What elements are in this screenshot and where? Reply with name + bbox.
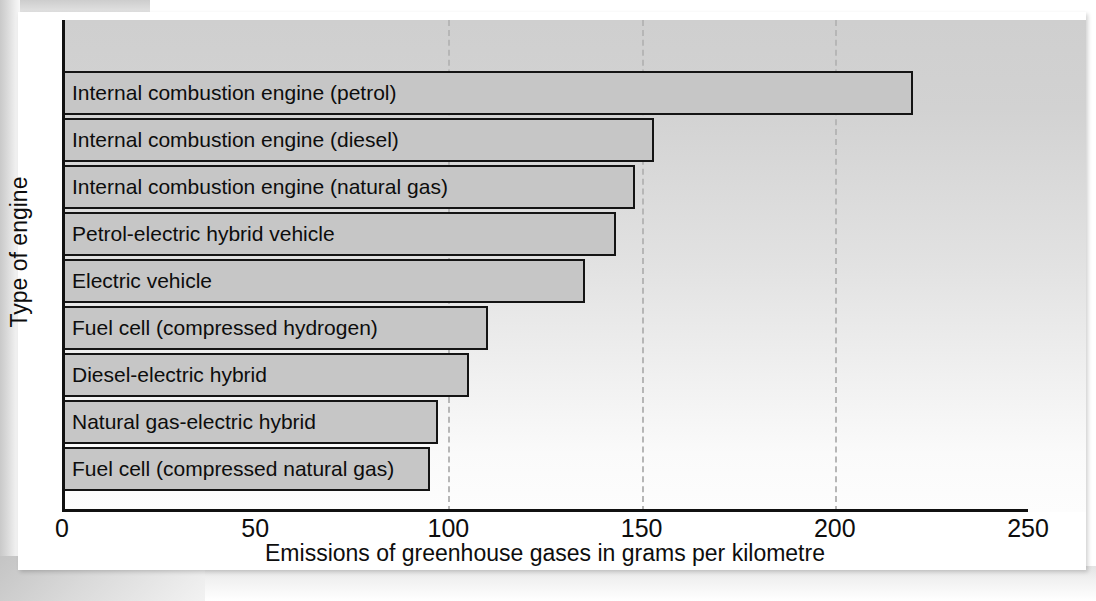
bar-row: Diesel-electric hybrid (63, 353, 469, 397)
bar-row: Petrol-electric hybrid vehicle (63, 212, 616, 256)
bar-row: Internal combustion engine (petrol) (63, 71, 913, 115)
bar-category-label: Internal combustion engine (petrol) (72, 71, 397, 115)
bar-category-label: Natural gas-electric hybrid (72, 400, 316, 444)
bar-row: Natural gas-electric hybrid (63, 400, 438, 444)
bar-row: Electric vehicle (63, 259, 585, 303)
bar-row: Fuel cell (compressed natural gas) (63, 447, 430, 491)
y-axis-line (62, 20, 65, 512)
x-axis-line (62, 509, 1028, 512)
bar-category-label: Petrol-electric hybrid vehicle (72, 212, 335, 256)
bar-category-label: Fuel cell (compressed hydrogen) (72, 306, 378, 350)
bar-row: Internal combustion engine (natural gas) (63, 165, 635, 209)
y-axis-title: Type of engine (6, 142, 33, 362)
x-axis-title: Emissions of greenhouse gases in grams p… (62, 540, 1028, 567)
bar-category-label: Electric vehicle (72, 259, 212, 303)
bar-chart: Internal combustion engine (petrol)Inter… (18, 12, 1086, 570)
x-tick-label-150: 150 (621, 514, 663, 543)
x-tick-label-100: 100 (428, 514, 470, 543)
figure-card: Internal combustion engine (petrol)Inter… (18, 12, 1086, 570)
bar-category-label: Internal combustion engine (natural gas) (72, 165, 448, 209)
bar-category-label: Internal combustion engine (diesel) (72, 118, 399, 162)
x-tick-label-250: 250 (1007, 514, 1049, 543)
bar-category-label: Diesel-electric hybrid (72, 353, 267, 397)
x-tick-label-200: 200 (814, 514, 856, 543)
bar-row: Fuel cell (compressed hydrogen) (63, 306, 488, 350)
scanned-page-background: Internal combustion engine (petrol)Inter… (0, 0, 1096, 601)
bar-category-label: Fuel cell (compressed natural gas) (72, 447, 394, 491)
x-tick-label-0: 0 (55, 514, 69, 543)
x-tick-label-50: 50 (241, 514, 269, 543)
bar-row: Internal combustion engine (diesel) (63, 118, 654, 162)
